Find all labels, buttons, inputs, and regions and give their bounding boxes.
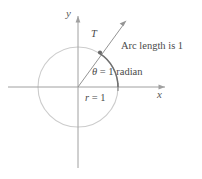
radius-value-text: = 1	[92, 92, 106, 103]
y-axis-arrowhead	[76, 16, 81, 23]
y-axis-label: y	[66, 8, 71, 19]
angle-label: θ = 1 radian	[92, 67, 142, 78]
x-axis-label: x	[157, 89, 162, 100]
diagram-canvas	[0, 0, 202, 179]
angle-theta-symbol: θ	[92, 66, 97, 77]
point-t-label: T	[91, 29, 97, 40]
radius-r-symbol: r	[85, 92, 89, 103]
radius-label: r = 1	[85, 93, 106, 104]
unit-circle-radian-diagram: y x T Arc length is 1 θ = 1 radian r = 1	[0, 0, 202, 179]
point-t-marker	[98, 50, 102, 54]
arc-length-label: Arc length is 1	[121, 41, 183, 52]
angle-value-text: = 1 radian	[100, 66, 143, 77]
terminal-ray-arrowhead	[120, 21, 127, 27]
